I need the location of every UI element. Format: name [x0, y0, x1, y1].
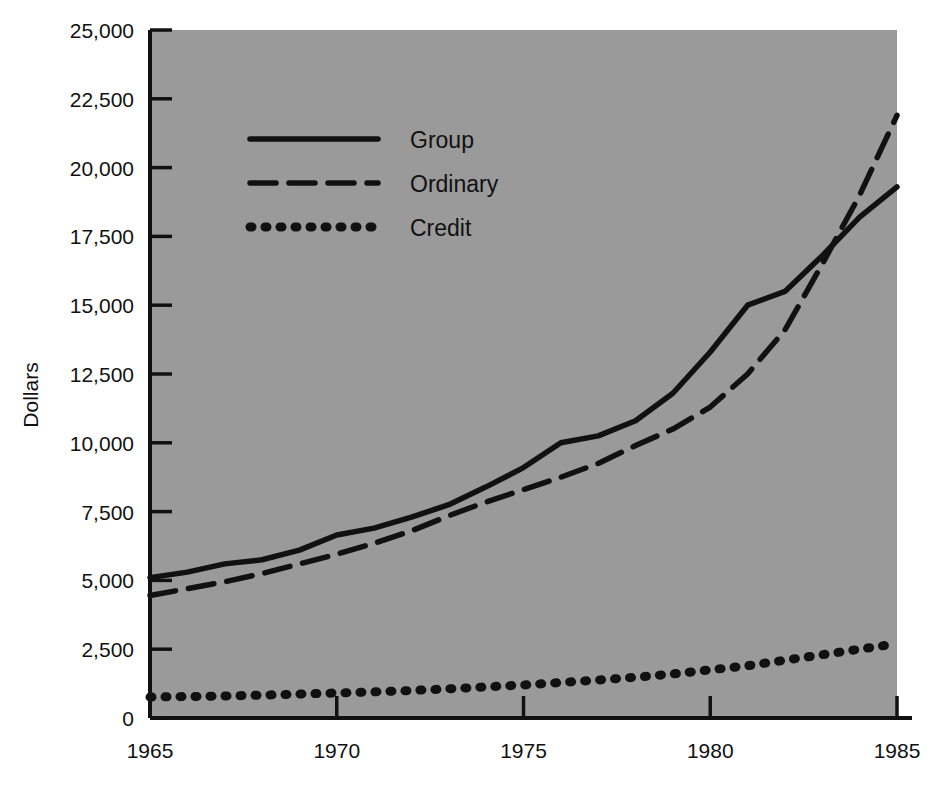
- chart-figure: 02,5005,0007,50010,00012,50015,00017,500…: [0, 0, 938, 785]
- x-axis-tick-labels: 19651970197519801985: [127, 739, 921, 762]
- x-tick-label: 1965: [127, 739, 174, 762]
- y-tick-label: 7,500: [81, 501, 134, 524]
- y-axis-tick-labels: 02,5005,0007,50010,00012,50015,00017,500…: [70, 19, 134, 730]
- plot-area-background: [150, 30, 897, 718]
- x-tick-label: 1985: [874, 739, 921, 762]
- y-tick-label: 2,500: [81, 638, 134, 661]
- y-axis-title: Dollars: [19, 362, 42, 427]
- legend-label-ordinary: Ordinary: [410, 171, 499, 197]
- line-chart: 02,5005,0007,50010,00012,50015,00017,500…: [0, 0, 938, 785]
- x-tick-label: 1970: [313, 739, 360, 762]
- y-tick-label: 25,000: [70, 19, 134, 42]
- y-tick-label: 5,000: [81, 569, 134, 592]
- legend-label-group: Group: [410, 127, 474, 153]
- x-tick-label: 1975: [500, 739, 547, 762]
- y-tick-label: 10,000: [70, 432, 134, 455]
- x-tick-label: 1980: [687, 739, 734, 762]
- y-tick-label: 0: [122, 707, 134, 730]
- y-tick-label: 20,000: [70, 157, 134, 180]
- y-tick-label: 12,500: [70, 363, 134, 386]
- legend-label-credit: Credit: [410, 215, 472, 241]
- y-tick-label: 17,500: [70, 225, 134, 248]
- y-tick-label: 15,000: [70, 294, 134, 317]
- y-tick-label: 22,500: [70, 88, 134, 111]
